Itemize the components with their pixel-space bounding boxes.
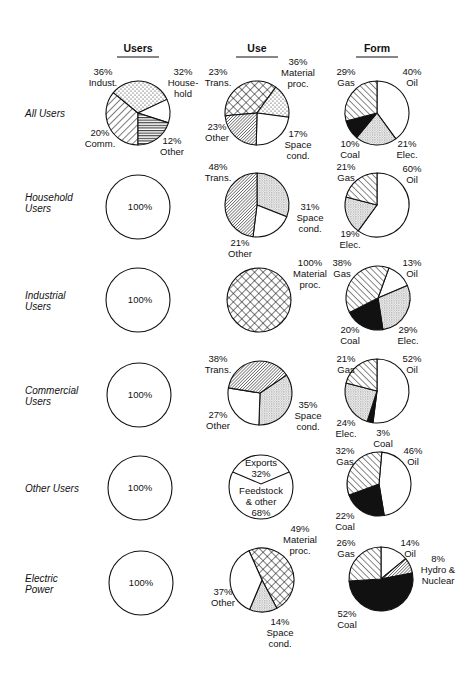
- slice-label: 19%: [340, 228, 360, 239]
- slice-label: 13%: [402, 257, 422, 268]
- pie-industrial-users: 100%: [106, 268, 170, 332]
- slice-label: 100%: [128, 482, 153, 493]
- slice-label: 37%: [213, 586, 233, 597]
- slice-label: 32%: [173, 66, 193, 77]
- slice-label: 100%: [128, 201, 153, 212]
- slice-label: 52%: [337, 608, 357, 619]
- pie-slice-oil: [373, 359, 409, 423]
- row-label: Users: [25, 396, 51, 407]
- pie-all-users-use: 36%Materialproc.17%Spacecond.23%Other23%…: [205, 56, 315, 161]
- slice-label: cond.: [286, 150, 309, 161]
- slice-label: Elec.: [397, 335, 418, 346]
- slice-label: Elec.: [335, 428, 356, 439]
- slice-label: Other: [160, 146, 184, 157]
- slice-label: 23%: [208, 66, 228, 77]
- slice-label: 24%: [336, 417, 356, 428]
- slice-label: Space: [295, 410, 322, 421]
- slice-label: 46%: [403, 445, 423, 456]
- slice-label: 10%: [340, 138, 360, 149]
- slice-label: Oil: [407, 456, 419, 467]
- slice-label: 38%: [208, 353, 228, 364]
- slice-label: 100%: [128, 294, 153, 305]
- slice-label: 52%: [402, 353, 422, 364]
- pie-chart-grid: UsersUseForm All UsersHouseholdUsersIndu…: [0, 0, 473, 673]
- slice-label: Gas: [337, 364, 355, 375]
- slice-label: 20%: [340, 324, 360, 335]
- slice-label: Elec.: [396, 149, 417, 160]
- slice-label: Elec.: [339, 239, 360, 250]
- slice-label: 38%: [332, 257, 352, 268]
- slice-label: 48%: [208, 161, 228, 172]
- slice-label: 32%: [335, 445, 355, 456]
- slice-label: Oil: [406, 364, 418, 375]
- slice-label: Nuclear: [422, 575, 455, 586]
- slice-label: 36%: [288, 56, 308, 67]
- pie-industrial-form: 13%Oil29%Elec.20%Coal38%Gas: [332, 257, 422, 346]
- pie-all-users-form: 40%Oil21%Elec.10%Coal29%Gas: [336, 66, 422, 160]
- slice-label: Hydro &: [421, 564, 456, 575]
- slice-label: Coal: [335, 521, 355, 532]
- pie-household-form: 60%Oil19%Elec.21%Gas: [336, 161, 422, 250]
- slice-label: hold: [174, 88, 192, 99]
- slice-label: Material: [281, 67, 315, 78]
- slice-label: Other: [228, 248, 252, 259]
- pie-other-form: 46%Oil22%Coal32%Gas: [335, 445, 423, 532]
- pie-all-users-users: 36%Indust.32%House-hold12%Other20%Comm.: [85, 66, 199, 157]
- slice-label: cond.: [296, 421, 319, 432]
- slice-label: Coal: [340, 149, 360, 160]
- slice-label: 68%: [251, 507, 271, 518]
- pie-household-users: 100%: [106, 175, 170, 239]
- column-header-use: Use: [247, 42, 266, 54]
- slice-label: Coal: [373, 438, 393, 449]
- slice-label: 100%: [129, 577, 154, 588]
- row-label: Household: [25, 192, 73, 203]
- slice-label: 14%: [400, 537, 420, 548]
- slice-label: proc.: [287, 78, 308, 89]
- slice-label: 100%: [298, 257, 323, 268]
- row-label: Commercial: [25, 385, 79, 396]
- pie-other-use: Exports32%Feedstock& other68%: [229, 455, 293, 519]
- slice-label: 22%: [335, 510, 355, 521]
- pie-slice-trans-: [225, 113, 257, 145]
- slice-label: 60%: [402, 163, 422, 174]
- slice-label: 29%: [336, 66, 356, 77]
- slice-label: Gas: [337, 77, 355, 88]
- slice-label: 14%: [270, 616, 290, 627]
- slice-label: 36%: [93, 66, 113, 77]
- pie-electric-use: 49%Materialproc.14%Spacecond.37%Other: [211, 523, 317, 649]
- slice-label: 49%: [290, 523, 310, 534]
- slice-label: 40%: [402, 66, 422, 77]
- row-label: Industrial: [25, 290, 66, 301]
- slice-label: Material: [283, 534, 317, 545]
- slice-label: 3%: [376, 427, 390, 438]
- slice-label: 20%: [90, 127, 110, 138]
- column-header-form: Form: [364, 42, 390, 54]
- slice-label: Oil: [404, 548, 416, 559]
- slice-label: Gas: [333, 268, 351, 279]
- slice-label: 12%: [162, 135, 182, 146]
- slice-label: Comm.: [85, 138, 116, 149]
- slice-label: 17%: [288, 128, 308, 139]
- slice-label: Space: [267, 627, 294, 638]
- pie-household-use: 31%Spacecond.21%Other48%Trans.: [205, 161, 324, 259]
- slice-label: & other: [246, 496, 277, 507]
- row-label: Users: [25, 203, 51, 214]
- slice-label: 21%: [336, 353, 356, 364]
- slice-label: Indust.: [89, 77, 118, 88]
- slice-label: proc.: [289, 545, 310, 556]
- slice-label: Other: [205, 132, 229, 143]
- slice-label: Trans.: [205, 364, 232, 375]
- slice-label: 21%: [397, 138, 417, 149]
- pie-slice-oil: [379, 452, 411, 515]
- slice-label: proc.: [299, 279, 320, 290]
- slice-label: Other: [211, 597, 235, 608]
- slice-label: Other: [206, 420, 230, 431]
- slice-label: 32%: [251, 468, 271, 479]
- row-label: Other Users: [25, 483, 79, 494]
- slice-label: Space: [297, 212, 324, 223]
- slice-label: 35%: [298, 399, 318, 410]
- slice-label: Gas: [337, 172, 355, 183]
- pie-industrial-use: 100%Materialproc.: [227, 257, 327, 332]
- slice-label: Gas: [337, 548, 355, 559]
- slice-label: 29%: [398, 324, 418, 335]
